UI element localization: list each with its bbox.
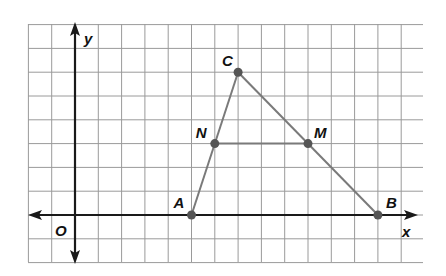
point-C (234, 68, 243, 77)
coordinate-plane: x y O ABCNM (0, 0, 446, 276)
point-label-A: A (173, 194, 185, 211)
point-M (304, 139, 313, 148)
point-A (187, 211, 196, 220)
point-label-C: C (222, 52, 234, 69)
point-label-N: N (196, 124, 208, 141)
point-N (210, 139, 219, 148)
y-axis-label: y (83, 30, 93, 47)
origin-label: O (55, 222, 67, 239)
point-label-M: M (314, 124, 327, 141)
x-axis-label: x (401, 223, 411, 240)
point-label-B: B (386, 194, 397, 211)
point-B (373, 211, 382, 220)
